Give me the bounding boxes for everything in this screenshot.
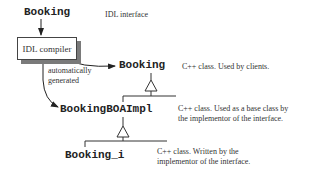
idl-interface-name: Booking	[24, 6, 70, 18]
generated-label: automatically generated	[48, 66, 92, 86]
class-booking-i: Booking_i	[65, 149, 124, 161]
class-booking-desc: C++ class. Used by clients.	[182, 62, 269, 72]
class-booking-i-desc: C++ class. Written by the implementor of…	[157, 147, 250, 167]
connector-lines	[0, 0, 312, 173]
class-booking-boa-impl-desc: C++ class. Used as a base class by the i…	[178, 104, 288, 124]
idl-interface-label: IDL interface	[105, 10, 148, 20]
idl-compiler-box: IDL compiler	[17, 37, 77, 60]
class-booking-boa-impl: BookingBOAImpl	[60, 103, 152, 115]
class-booking: Booking	[119, 59, 165, 71]
